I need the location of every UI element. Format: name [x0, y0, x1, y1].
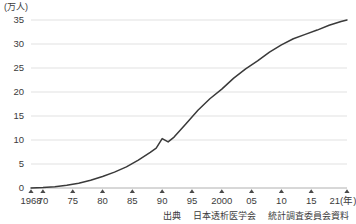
x-axis-tick-marker: [130, 189, 135, 193]
y-axis-tick-label: 5: [4, 159, 24, 169]
y-axis-tick-label: 20: [4, 87, 24, 97]
source-document: 統計調査委員会資料: [268, 211, 349, 221]
x-axis-tick-marker: [160, 189, 165, 193]
x-axis-tick-label: 15: [306, 196, 317, 206]
x-axis-tick-label: 80: [97, 196, 108, 206]
x-axis-tick-marker: [28, 189, 33, 193]
data-line-series: [31, 20, 347, 188]
x-axis-tick-marker: [344, 189, 349, 193]
x-axis-tick-label: 90: [157, 196, 168, 206]
x-axis-tick-label: 85: [127, 196, 138, 206]
x-axis-tick-marker: [279, 189, 284, 193]
y-axis-tick-label: 35: [4, 15, 24, 25]
y-axis-tick-label: 15: [4, 111, 24, 121]
y-axis-tick-label: 0: [4, 183, 24, 193]
x-axis-tick-marker: [219, 189, 224, 193]
y-axis-tick-label: 25: [4, 63, 24, 73]
y-axis-tick-label: 10: [4, 135, 24, 145]
y-axis-tick-label: 30: [4, 39, 24, 49]
source-citation: 出典 日本透析医学会 統計調査委員会資料: [163, 210, 349, 222]
x-axis-tick-label: 70: [38, 196, 49, 206]
x-axis-tick-marker: [70, 189, 75, 193]
x-axis-tick-label: 05: [246, 196, 257, 206]
x-axis-tick-label: 75: [67, 196, 78, 206]
x-axis-tick-label: 2000: [211, 196, 232, 206]
x-axis-tick-marker: [40, 189, 45, 193]
x-axis-tick-marker: [249, 189, 254, 193]
x-axis-tick-label: 95: [187, 196, 198, 206]
x-axis-tick-marker: [309, 189, 314, 193]
source-prefix: 出典: [163, 211, 181, 221]
x-axis-tick-marker: [100, 189, 105, 193]
x-axis-tick-label: 10: [276, 196, 287, 206]
x-axis-tick-markers: [28, 189, 349, 193]
gridlines: [31, 20, 347, 188]
source-organization: 日本透析医学会: [193, 211, 256, 221]
x-axis-tick-label: 21(年): [330, 196, 356, 206]
x-axis-tick-marker: [189, 189, 194, 193]
